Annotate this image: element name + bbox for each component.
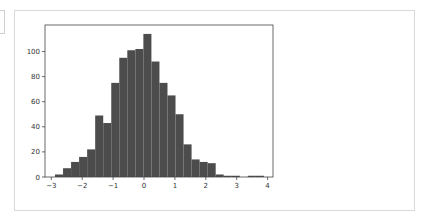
x-tick-label: 2: [204, 182, 208, 190]
histogram-bar: [119, 58, 127, 177]
histogram-bars: [55, 34, 264, 177]
y-tick-label: 60: [31, 98, 40, 106]
histogram-bar: [167, 95, 175, 177]
x-tick-label: −1: [108, 182, 118, 190]
histogram-bar: [184, 144, 192, 177]
x-tick-label: 4: [265, 182, 270, 190]
histogram-bar: [200, 162, 208, 177]
histogram-bar: [111, 83, 119, 177]
histogram-bar: [159, 83, 167, 177]
y-tick-label: 80: [31, 73, 40, 81]
histogram-bar: [208, 163, 216, 177]
histogram-bar: [192, 159, 200, 177]
histogram-bar: [79, 157, 87, 177]
x-tick-label: −3: [46, 182, 56, 190]
y-tick-label: 100: [27, 48, 40, 56]
y-tick-label: 40: [31, 123, 40, 131]
y-tick-label: 0: [36, 174, 40, 182]
histogram-bar: [143, 34, 151, 177]
histogram-bar: [176, 114, 184, 177]
x-tick-label: 3: [234, 182, 238, 190]
x-axis-ticks: −3−2−101234: [46, 177, 270, 190]
x-tick-label: 0: [142, 182, 146, 190]
histogram-bar: [95, 116, 103, 177]
y-axis-ticks: 020406080100: [27, 48, 45, 182]
y-tick-label: 20: [31, 148, 40, 156]
histogram-chart: −3−2−101234 020406080100: [0, 0, 427, 221]
histogram-bar: [103, 123, 111, 177]
histogram-bar: [135, 49, 143, 177]
x-tick-label: 1: [173, 182, 177, 190]
histogram-bar: [71, 162, 79, 177]
histogram-bar: [127, 50, 135, 177]
histogram-bar: [63, 168, 71, 177]
histogram-bar: [87, 149, 95, 177]
x-tick-label: −2: [77, 182, 87, 190]
histogram-bar: [151, 62, 159, 177]
